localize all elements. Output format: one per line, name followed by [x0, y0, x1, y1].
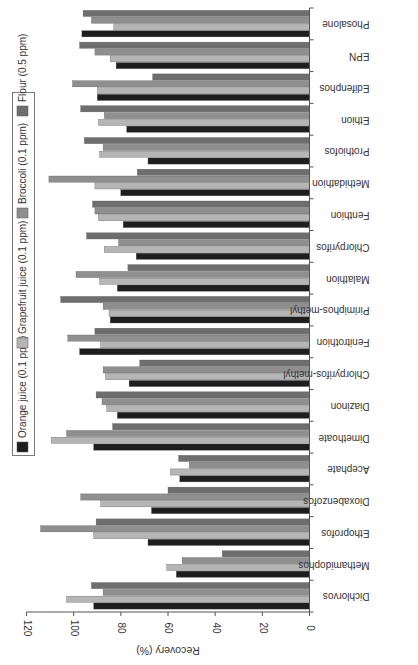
legend: Orange juice (0.1 ppm)Grapefruit juice (…	[13, 34, 35, 456]
bar	[67, 596, 310, 602]
bar	[81, 494, 310, 500]
bar	[110, 56, 309, 62]
bar	[176, 571, 309, 577]
bar	[102, 399, 310, 405]
category-label: Diazinon	[331, 401, 370, 412]
bar	[117, 285, 309, 291]
bar	[110, 317, 309, 323]
category-label: Chlorpyrifos	[316, 242, 369, 253]
bar	[61, 296, 310, 302]
bar-group	[41, 519, 310, 546]
bar	[114, 24, 310, 30]
bar	[100, 278, 310, 284]
bar-group	[87, 233, 310, 260]
legend-label: Broccoli (0.1 ppm)	[17, 123, 28, 204]
bar	[106, 374, 310, 380]
bar	[182, 558, 309, 564]
bar	[87, 233, 310, 239]
legend-swatch	[17, 338, 28, 348]
bar	[103, 589, 309, 595]
bar	[73, 81, 310, 87]
value-tick-label: 0	[305, 625, 316, 631]
value-tick-label: 40	[211, 622, 222, 634]
bar	[167, 564, 310, 570]
bars-layer	[41, 10, 310, 609]
bar	[76, 271, 310, 277]
category-label: Fenitrothion	[317, 337, 370, 348]
bar	[148, 539, 310, 545]
bar	[113, 424, 310, 430]
bar-group	[81, 106, 310, 133]
bar	[127, 126, 310, 132]
bar	[123, 221, 309, 227]
bar	[80, 349, 310, 355]
bar-group	[73, 74, 310, 101]
category-label: Methidathion	[312, 178, 369, 189]
bar	[95, 328, 310, 334]
bar-group	[103, 360, 309, 387]
legend-label: Orange juice (0.1 ppm)	[17, 336, 28, 438]
category-label: Edifenphos	[319, 83, 369, 94]
bar	[107, 405, 310, 411]
bar	[97, 94, 309, 100]
bar-group	[167, 551, 310, 578]
bar-group	[80, 42, 310, 69]
bar-group	[170, 455, 309, 482]
bar	[179, 455, 310, 461]
bar	[189, 462, 309, 468]
bar	[98, 119, 309, 125]
bar	[148, 158, 310, 164]
bar	[170, 469, 309, 475]
bar	[137, 169, 309, 175]
bar-group	[61, 296, 310, 323]
bar-group	[51, 424, 309, 451]
bar	[116, 63, 309, 69]
value-tick-label: 20	[258, 622, 269, 634]
bar	[84, 138, 309, 144]
legend-swatch	[17, 208, 28, 218]
legend-swatch	[17, 106, 28, 116]
bar	[100, 151, 310, 157]
legend-entry: Orange juice (0.1 ppm)	[17, 336, 28, 452]
bar	[95, 183, 310, 189]
bar	[129, 380, 309, 386]
legend-swatch	[17, 442, 28, 452]
value-tick-label: 80	[116, 622, 127, 634]
bar	[117, 412, 309, 418]
bar	[109, 310, 310, 316]
bar	[97, 88, 309, 94]
bar	[98, 215, 309, 221]
category-label: Fenthion	[331, 210, 370, 221]
bar	[95, 208, 310, 214]
bar	[94, 603, 310, 609]
bar	[96, 392, 309, 398]
bar	[91, 17, 309, 23]
bar	[94, 533, 310, 539]
bar	[41, 526, 310, 532]
legend-entry: Grapefruit juice (0.1 ppm)	[17, 221, 28, 348]
category-label: Ethion	[341, 115, 369, 126]
bar	[104, 246, 309, 252]
bar	[91, 583, 309, 589]
bar	[51, 437, 309, 443]
bar-group	[96, 392, 309, 419]
category-label: Prothiofos	[324, 146, 369, 157]
bar	[80, 42, 310, 48]
bar	[119, 240, 310, 246]
bar	[96, 519, 309, 525]
bar	[103, 303, 309, 309]
value-tick-label: 120	[22, 620, 33, 637]
bar-group	[67, 583, 310, 610]
bar-group	[76, 265, 310, 292]
bar	[82, 31, 310, 37]
bar	[49, 176, 310, 182]
category-label: Chlorpyrifos-methyl	[283, 369, 369, 380]
bar	[67, 430, 310, 436]
category-label: Dichlorvos	[323, 591, 370, 602]
bar	[81, 106, 310, 112]
legend-label: Flour (0.5 ppm)	[17, 34, 28, 102]
bar-group	[93, 201, 310, 228]
bar-group	[68, 328, 310, 355]
bar	[140, 360, 310, 366]
bar	[103, 144, 309, 150]
